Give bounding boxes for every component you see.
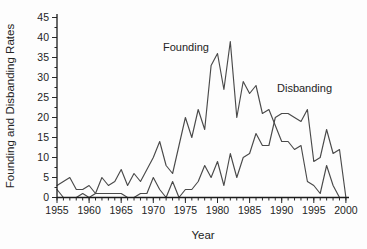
- y-axis-title: Founding and Disbanding Rates: [4, 24, 16, 189]
- y-tick-label-0: 0: [43, 191, 49, 203]
- x-tick-label-1990: 1990: [270, 204, 294, 216]
- y-tick-label-30: 30: [37, 71, 49, 83]
- x-tick-label-1965: 1965: [110, 204, 134, 216]
- y-tick-label-45: 45: [37, 11, 49, 23]
- x-tick-label-1980: 1980: [206, 204, 230, 216]
- x-tick-label-1960: 1960: [77, 204, 101, 216]
- y-tick-label-40: 40: [37, 31, 49, 43]
- y-tick-label-35: 35: [37, 51, 49, 63]
- disbanding-series-label: Disbanding: [277, 82, 332, 94]
- x-tick-label-1985: 1985: [238, 204, 262, 216]
- y-tick-label-25: 25: [37, 91, 49, 103]
- x-axis-title: Year: [191, 229, 214, 241]
- y-tick-label-20: 20: [37, 111, 49, 123]
- y-tick-label-15: 15: [37, 131, 49, 143]
- x-tick-label-1970: 1970: [142, 204, 166, 216]
- chart-canvas: 1955196019651970197519801985199019952000…: [0, 0, 367, 249]
- x-tick-label-2000: 2000: [334, 204, 358, 216]
- x-tick-label-1975: 1975: [174, 204, 198, 216]
- founding-series-label: Founding: [163, 41, 209, 53]
- y-tick-label-5: 5: [43, 171, 49, 183]
- x-tick-label-1995: 1995: [302, 204, 326, 216]
- x-tick-label-1955: 1955: [45, 204, 69, 216]
- y-tick-label-10: 10: [37, 151, 49, 163]
- founding-disbanding-rate-chart: 1955196019651970197519801985199019952000…: [0, 0, 367, 249]
